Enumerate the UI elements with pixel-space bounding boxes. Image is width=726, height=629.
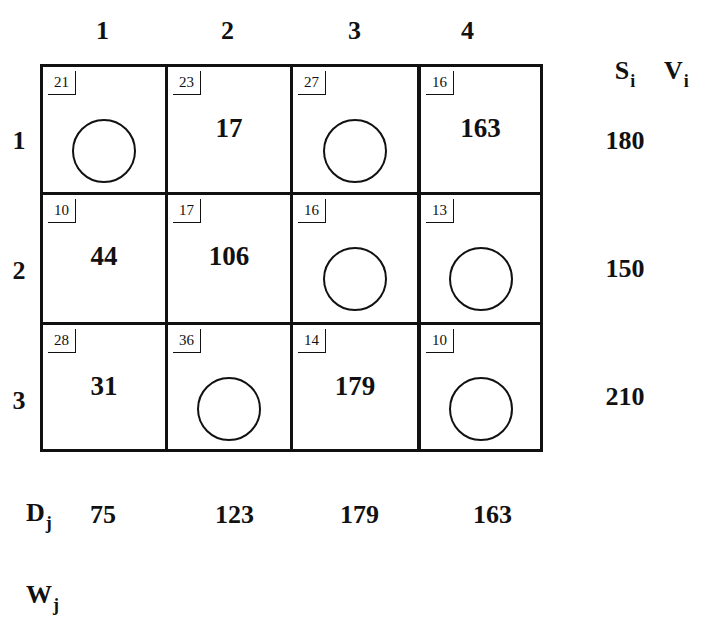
cell-1-1: 21: [43, 67, 165, 192]
cell-1-2: 23 17: [168, 67, 290, 192]
supply-header-sub: i: [630, 71, 635, 91]
empty-cell-circle-icon: [449, 377, 513, 441]
supply-value-2: 150: [590, 256, 660, 282]
cell-1-3: 27: [293, 67, 417, 192]
empty-cell-circle-icon: [449, 247, 513, 311]
transportation-table: 21 23 17 27 16 163 10 44 17 106 16 13 28…: [40, 64, 543, 452]
allocation-value: 179: [293, 371, 417, 402]
cost-box: 10: [48, 199, 76, 223]
v-header-sub: i: [684, 71, 689, 91]
cell-3-4: 10: [421, 325, 540, 449]
cost-box: 17: [173, 199, 201, 223]
supply-value-3: 210: [590, 384, 660, 410]
row-header-2: 2: [8, 258, 30, 284]
cell-2-4: 13: [421, 195, 540, 322]
column-header-3: 3: [292, 18, 417, 44]
v-header-base: V: [664, 56, 683, 85]
cost-box: 28: [48, 329, 76, 353]
cost-box: 14: [298, 329, 326, 353]
w-header-base: W: [26, 580, 52, 609]
column-header-1: 1: [40, 18, 165, 44]
demand-value-4: 163: [430, 502, 555, 528]
empty-cell-circle-icon: [323, 247, 387, 311]
cost-box: 13: [426, 199, 454, 223]
cost-box: 36: [173, 329, 201, 353]
cost-box: 10: [426, 329, 454, 353]
column-header-4: 4: [405, 18, 530, 44]
allocation-value: 17: [168, 113, 290, 144]
demand-value-3: 179: [297, 502, 422, 528]
allocation-value: 44: [43, 241, 165, 272]
allocation-value: 31: [43, 371, 165, 402]
cost-box: 23: [173, 71, 201, 95]
cost-box: 16: [298, 199, 326, 223]
supply-value-1: 180: [590, 128, 660, 154]
cell-2-2: 17 106: [168, 195, 290, 322]
cell-3-1: 28 31: [43, 325, 165, 449]
supply-header: Si: [590, 58, 660, 84]
column-header-2: 2: [165, 18, 290, 44]
demand-header-sub: j: [46, 513, 52, 533]
v-header: Vi: [664, 58, 689, 84]
allocation-value: 106: [168, 241, 290, 272]
cost-box: 16: [426, 71, 454, 95]
allocation-value: 163: [421, 113, 540, 144]
cell-3-2: 36: [168, 325, 290, 449]
cost-box: 21: [48, 71, 76, 95]
demand-header: Dj: [26, 500, 52, 526]
empty-cell-circle-icon: [72, 119, 136, 183]
empty-cell-circle-icon: [197, 377, 261, 441]
w-header-sub: j: [53, 595, 59, 615]
cell-3-3: 14 179: [293, 325, 417, 449]
cell-2-3: 16: [293, 195, 417, 322]
demand-header-base: D: [26, 498, 45, 527]
cell-1-4: 16 163: [421, 67, 540, 192]
w-header: Wj: [26, 582, 59, 608]
cost-box: 27: [298, 71, 326, 95]
demand-value-1: 75: [90, 502, 116, 528]
empty-cell-circle-icon: [323, 119, 387, 183]
demand-value-2: 123: [172, 502, 297, 528]
row-header-1: 1: [8, 128, 30, 154]
row-header-3: 3: [8, 388, 30, 414]
supply-header-base: S: [615, 56, 629, 85]
cell-2-1: 10 44: [43, 195, 165, 322]
